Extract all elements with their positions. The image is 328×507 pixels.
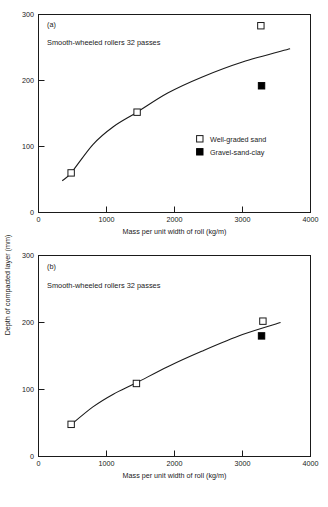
panel-b-point-filled-1 bbox=[258, 333, 264, 339]
panel-b-y-tick-labels: 0 100 200 300 bbox=[22, 251, 34, 461]
panel-a-ytick-1: 100 bbox=[22, 142, 34, 151]
panel-a-xtick-3: 3000 bbox=[235, 215, 251, 224]
panel-b-series-well-graded-sand bbox=[68, 318, 266, 428]
panel-a: 0 1000 2000 3000 4000 0 100 200 300 Mass… bbox=[22, 10, 319, 236]
panel-a-point-open-2 bbox=[134, 109, 140, 115]
panel-b-point-open-1 bbox=[68, 421, 74, 427]
panel-b-x-tick-labels: 0 1000 2000 3000 4000 bbox=[37, 459, 319, 468]
panel-a-point-open-1 bbox=[68, 170, 74, 176]
panel-a-ytick-3: 300 bbox=[22, 10, 34, 19]
panel-a-x-axis-title: Mass per unit width of roll (kg/m) bbox=[123, 227, 227, 236]
panel-b-xtick-4: 4000 bbox=[303, 459, 319, 468]
chart-svg: Depth of compacted layer (mm) 0 1000 200… bbox=[0, 0, 328, 507]
panel-a-xtick-4: 4000 bbox=[303, 215, 319, 224]
panel-a-series-gravel-sand-clay bbox=[258, 83, 264, 89]
panel-b: 0 1000 2000 3000 4000 0 100 200 300 Mass… bbox=[22, 251, 319, 480]
panel-a-y-ticks bbox=[39, 81, 45, 147]
panel-a-fitted-curve bbox=[62, 49, 290, 181]
panel-b-point-open-3 bbox=[260, 318, 266, 324]
panel-b-y-ticks bbox=[39, 323, 45, 390]
y-axis-label-group: Depth of compacted layer (mm) bbox=[3, 235, 12, 336]
panel-b-annotation: Smooth-wheeled rollers 32 passes bbox=[47, 281, 161, 290]
legend-label-gravel-sand-clay: Gravel-sand-clay bbox=[210, 148, 265, 157]
panel-a-tag: (a) bbox=[47, 20, 56, 29]
panel-a-x-ticks bbox=[107, 207, 243, 213]
panel-b-x-ticks bbox=[107, 451, 243, 457]
panel-b-tag: (b) bbox=[47, 262, 56, 271]
panel-a-point-open-3 bbox=[258, 23, 264, 29]
panel-a-ytick-2: 200 bbox=[22, 76, 34, 85]
panel-b-xtick-3: 3000 bbox=[235, 459, 251, 468]
panel-b-x-axis-title: Mass per unit width of roll (kg/m) bbox=[123, 471, 227, 480]
panel-b-xtick-1: 1000 bbox=[99, 459, 115, 468]
panel-b-series-gravel-sand-clay bbox=[258, 333, 264, 339]
y-axis-label: Depth of compacted layer (mm) bbox=[3, 235, 12, 336]
panel-a-point-filled-1 bbox=[258, 83, 264, 89]
panel-b-fitted-curve bbox=[69, 323, 280, 427]
figure-container: Depth of compacted layer (mm) 0 1000 200… bbox=[0, 0, 328, 507]
panel-b-xtick-0: 0 bbox=[37, 459, 41, 468]
legend-marker-open-square bbox=[197, 136, 203, 142]
legend-label-well-graded-sand: Well-graded sand bbox=[210, 135, 266, 144]
panel-b-ytick-3: 300 bbox=[22, 251, 34, 260]
panel-a-xtick-2: 2000 bbox=[167, 215, 183, 224]
panel-a-ytick-0: 0 bbox=[30, 208, 34, 217]
panel-a-xtick-1: 1000 bbox=[99, 215, 115, 224]
panel-b-xtick-2: 2000 bbox=[167, 459, 183, 468]
panel-a-y-tick-labels: 0 100 200 300 bbox=[22, 10, 34, 217]
panel-a-annotation: Smooth-wheeled rollers 32 passes bbox=[47, 38, 161, 47]
legend-marker-filled-square bbox=[197, 149, 203, 155]
legend: Well-graded sand Gravel-sand-clay bbox=[197, 135, 267, 157]
panel-b-ytick-1: 100 bbox=[22, 385, 34, 394]
panel-b-ytick-2: 200 bbox=[22, 318, 34, 327]
panel-b-ytick-0: 0 bbox=[30, 452, 34, 461]
panel-a-xtick-0: 0 bbox=[37, 215, 41, 224]
panel-a-x-tick-labels: 0 1000 2000 3000 4000 bbox=[37, 215, 319, 224]
panel-b-point-open-2 bbox=[133, 380, 139, 386]
